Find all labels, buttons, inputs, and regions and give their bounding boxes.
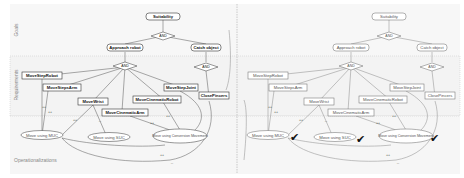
and-label: AND (347, 64, 355, 68)
contribution-label: ++ (166, 114, 170, 118)
contribution-label: ++ (73, 118, 77, 122)
operationalization-label: Move using MUC (252, 133, 284, 138)
goal-label: Approach robot (109, 45, 141, 50)
requirement-label: MoveCinematicArm (333, 110, 370, 115)
goals-lane (10, 4, 460, 56)
requirement-label: MoveCinematicArm (105, 110, 144, 115)
and-label: AND (159, 34, 167, 38)
goal-label: Approach robot (337, 45, 366, 50)
operationalization-label: Move using SUC (319, 135, 350, 140)
requirement-label: ClosePincers (201, 93, 228, 98)
operationalization-label: Move using MUC (26, 133, 58, 138)
requirement-label: MoveCinematicRobot (136, 97, 179, 102)
contribution-label: ++ (160, 153, 164, 157)
checkmark-icon: ✔ (430, 132, 439, 145)
requirement-label: ClosePincers (428, 93, 453, 98)
requirement-label: MoveStepsArm (47, 85, 78, 90)
checkmark-icon: ✔ (356, 133, 365, 146)
and-label: AND (121, 64, 129, 68)
requirement-label: MoveWrist (82, 99, 104, 104)
contribution-label: ++ (392, 114, 396, 118)
contribution-label: ++ (48, 110, 52, 114)
and-label: AND (428, 65, 436, 69)
requirement-label: MoveStepJoint (393, 85, 422, 90)
contribution-label: ++ (299, 118, 303, 122)
goal-label: Suitability (153, 14, 174, 19)
requirement-label: MoveStepsArm (274, 85, 303, 90)
lane-label-requirements: Requirements (13, 69, 19, 101)
and-label: AND (202, 65, 210, 69)
requirement-label: MoveWrist (309, 99, 330, 104)
and-label: AND (385, 34, 393, 38)
requirement-label: MoveStepRobot (26, 73, 58, 78)
contribution-label: ++ (42, 105, 46, 109)
goal-label: Catch object (193, 45, 219, 50)
operationalizations-lane (10, 116, 460, 174)
operationalization-label: Move using Conversion Movement (378, 134, 433, 138)
contribution-label: ++ (150, 121, 154, 125)
contribution-label: ++ (376, 121, 380, 125)
goal-label: Catch object (420, 45, 444, 50)
operationalization-label: Move using SUC (93, 135, 124, 140)
requirement-label: MoveStepJoint (166, 85, 196, 90)
goal-model-diagram: Goals Requirements Operationalizations +… (0, 0, 464, 178)
requirement-label: MoveCinematicRobot (363, 97, 404, 102)
operationalization-label: Move using Conversion Movement (152, 134, 207, 138)
lane-label-operationalizations: Operationalizations (14, 157, 57, 163)
contribution-label: ++ (268, 105, 272, 109)
contribution-label: ++ (274, 110, 278, 114)
goal-label: Suitability (380, 14, 399, 19)
contribution-label: ++ (386, 153, 390, 157)
lane-label-goals: Goals (13, 23, 19, 37)
requirement-label: MoveStepRobot (253, 73, 284, 78)
checkmark-icon: ✔ (290, 131, 299, 144)
